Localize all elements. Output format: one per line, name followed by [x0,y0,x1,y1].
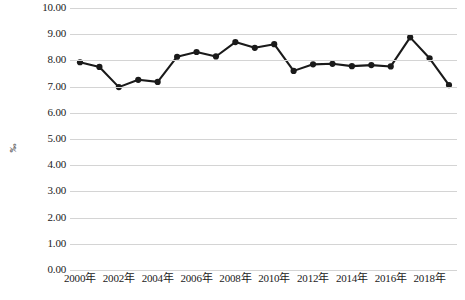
y-axis-tick-label: 6.00 [20,107,66,118]
data-point-marker [213,53,219,59]
y-axis-tick-labels: 10.009.008.007.006.005.004.003.002.001.0… [20,0,66,300]
gridline [70,244,457,245]
x-axis-tick-label: 2002年 [103,272,135,285]
plot-area [70,8,457,270]
x-axis-tick-label: 2016年 [375,272,407,285]
y-axis-tick-label: 9.00 [20,28,66,39]
line-chart: ‰ 10.009.008.007.006.005.004.003.002.001… [0,0,465,300]
gridline [70,191,457,192]
data-point-marker [155,79,161,85]
gridline [70,270,457,271]
gridline [70,139,457,140]
x-axis-tick-label: 2018年 [414,272,446,285]
gridline [70,218,457,219]
data-point-marker [368,62,374,68]
gridline [70,113,457,114]
x-axis-tick-label: 2000年 [64,272,96,285]
gridline [70,165,457,166]
x-axis-tick-label: 2006年 [181,272,213,285]
data-point-marker [252,45,258,51]
x-axis-tick-label: 2004年 [142,272,174,285]
data-point-marker [329,61,335,67]
y-axis-tick-label: 4.00 [20,159,66,170]
y-axis-tick-label: 7.00 [20,81,66,92]
y-axis-tick-label: 5.00 [20,133,66,144]
data-point-marker [174,54,180,60]
gridline [70,34,457,35]
x-axis-tick-labels: 2000年2002年2004年2006年2008年2010年2012年2014年… [70,272,457,298]
data-point-marker [388,63,394,69]
x-axis-tick-label: 2010年 [258,272,290,285]
data-point-marker [193,49,199,55]
y-axis-tick-label: 1.00 [20,238,66,249]
gridline [70,8,457,9]
y-axis-tick-label: 10.00 [20,2,66,13]
y-axis-tick-label: 2.00 [20,212,66,223]
data-point-marker [96,64,102,70]
y-axis-tick-label: 0.00 [20,264,66,275]
data-point-marker [271,41,277,47]
gridline [70,87,457,88]
x-axis-tick-label: 2014年 [336,272,368,285]
y-axis-tick-label: 8.00 [20,54,66,65]
data-point-marker [135,77,141,83]
data-point-marker [310,61,316,67]
y-axis-tick-label: 3.00 [20,185,66,196]
x-axis-tick-label: 2008年 [219,272,251,285]
data-point-marker [349,63,355,69]
data-point-marker [232,39,238,45]
data-point-marker [291,68,297,74]
x-axis-tick-label: 2012年 [297,272,329,285]
gridline [70,60,457,61]
